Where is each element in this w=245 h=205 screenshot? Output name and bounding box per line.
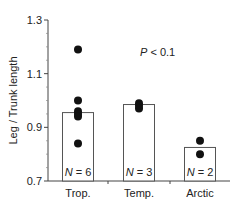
p-value-annotation: P < 0.1 [140,46,175,58]
y-tick-label: 0.9 [27,121,42,133]
data-point [74,113,82,121]
x-tick-label: Arctic [186,187,214,199]
data-point [74,46,82,54]
sample-size-label: N = 3 [126,166,153,178]
chart: 0.70.91.11.3Leg / Trunk lengthN = 6Trop.… [0,0,245,205]
sample-size-label: N = 2 [187,166,214,178]
y-tick-label: 1.1 [27,68,42,80]
y-axis-label: Leg / Trunk length [7,56,19,144]
data-point [196,137,204,145]
y-tick-label: 1.3 [27,14,42,26]
data-point [196,150,204,158]
x-tick-label: Trop. [65,187,90,199]
data-point [74,97,82,105]
y-tick-label: 0.7 [27,175,42,187]
data-point [135,105,143,113]
sample-size-label: N = 6 [65,166,92,178]
data-point [74,139,82,147]
x-tick-label: Temp. [124,187,154,199]
